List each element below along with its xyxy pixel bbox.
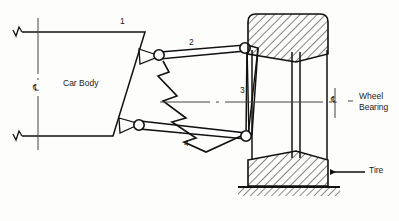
centerline-symbol-right: ℄: [331, 95, 337, 105]
tire-label: Tire: [369, 166, 383, 176]
link-3-label: 3: [240, 86, 245, 96]
wheel-bearing-label-line1: Wheel: [359, 92, 383, 102]
coil-spring: [158, 61, 241, 152]
wheel-rim: [252, 50, 327, 160]
centerline-symbol-left: ℄: [33, 83, 39, 93]
link-2-label: 2: [189, 38, 194, 48]
diagram-svg: [0, 0, 399, 221]
pivot-joint-lower-body: [134, 120, 144, 130]
pivot-joint-upper-body: [154, 50, 164, 60]
break-symbol-bottom: [13, 131, 22, 140]
suspension-diagram-canvas: Car Body 1 2 3 4 ℄ ℄ Wheel Bearing Tire: [0, 0, 399, 221]
tire-lower-section: [248, 151, 328, 186]
link-4-label: 4: [184, 139, 189, 149]
tire-upper-section: [248, 14, 328, 62]
link-1-label: 1: [120, 17, 125, 27]
link-2-upper-control-arm: [160, 45, 245, 59]
car-body-label: Car Body: [63, 79, 98, 89]
ground-hatching: [238, 187, 340, 196]
break-symbol-top: [13, 27, 22, 36]
wheel-bearing-label-line2: Bearing: [359, 103, 388, 113]
pivot-joint-lower-knuckle: [241, 131, 251, 141]
